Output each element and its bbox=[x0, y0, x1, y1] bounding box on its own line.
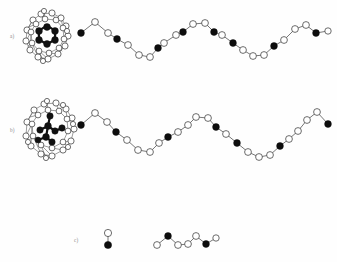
chain-c-nodes bbox=[154, 233, 220, 249]
cluster-a-dark-core bbox=[36, 24, 59, 48]
cluster-b bbox=[23, 98, 77, 160]
chain-c bbox=[154, 233, 220, 249]
panel-b-label: b) bbox=[10, 127, 15, 134]
panel-a-label: a) bbox=[10, 33, 15, 40]
chain-a bbox=[78, 19, 332, 61]
panel-c-label: c) bbox=[74, 237, 79, 244]
cluster-a-shell-nodes bbox=[23, 8, 71, 63]
panel-c: c) bbox=[74, 229, 219, 248]
panel-a: a) bbox=[10, 8, 331, 63]
chain-b-nodes bbox=[78, 109, 332, 161]
chain-b bbox=[78, 109, 332, 161]
cluster-c-dimer bbox=[104, 229, 111, 248]
figure-canvas: a) bbox=[0, 0, 337, 262]
cluster-b-shell-nodes bbox=[23, 98, 77, 160]
chain-a-nodes bbox=[78, 19, 332, 61]
molecular-figure-svg: a) bbox=[0, 0, 337, 262]
cluster-a bbox=[23, 8, 71, 63]
panel-b: b) bbox=[10, 98, 331, 160]
